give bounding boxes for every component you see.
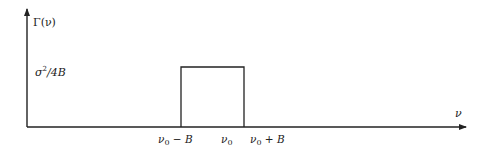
tick-label-upper: ν0 + B bbox=[250, 133, 285, 147]
level-label: σ2/4B bbox=[35, 65, 66, 79]
tick-label-center: ν0 bbox=[221, 133, 232, 147]
y-axis-label: Γ(ν) bbox=[33, 16, 56, 29]
x-axis-label: ν bbox=[455, 107, 462, 120]
spectrum-diagram: Γ(ν) σ2/4B ν ν0 − B ν0 ν0 + B bbox=[0, 0, 488, 147]
spectrum-rectangle bbox=[181, 67, 244, 127]
tick-label-lower: ν0 − B bbox=[158, 133, 193, 147]
